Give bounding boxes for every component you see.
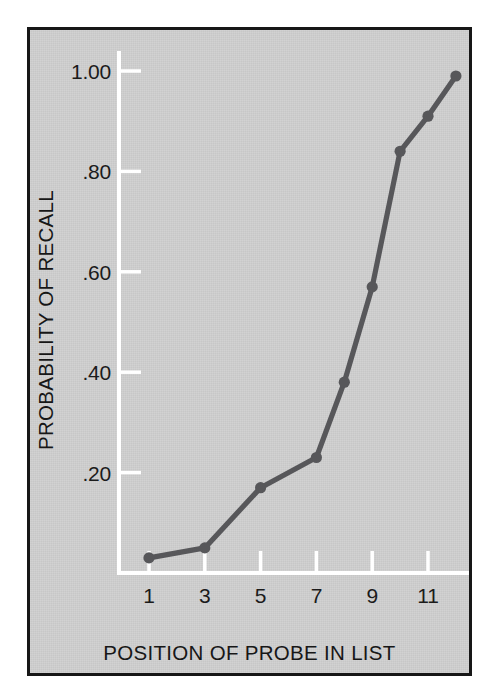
y-tick-label: 1.00 (30, 61, 111, 82)
x-tick-label: 3 (199, 585, 210, 606)
line-chart-plot (30, 30, 469, 673)
data-series-group (143, 70, 461, 563)
data-point (395, 146, 406, 157)
y-axis-title: PROBABILITY OF RECALL (34, 190, 58, 450)
recall-curve (149, 76, 456, 558)
y-tick-label: .20 (30, 462, 111, 483)
data-point (367, 281, 378, 292)
data-point (339, 377, 350, 388)
y-tick-label: .80 (30, 161, 111, 182)
figure-plate: .20.40.60.801.00 1357911 PROBABILITY OF … (27, 27, 472, 676)
x-tick-label: 7 (311, 585, 322, 606)
x-tick-marks (149, 551, 428, 573)
data-point (311, 452, 322, 463)
x-tick-label: 5 (255, 585, 266, 606)
y-tick-marks (119, 71, 141, 473)
x-axis-title: POSITION OF PROBE IN LIST (30, 641, 469, 665)
data-point (422, 111, 433, 122)
data-point (255, 482, 266, 493)
x-tick-label: 11 (417, 585, 438, 606)
data-point (143, 552, 154, 563)
data-point (450, 70, 461, 81)
recall-data-points (143, 70, 461, 563)
x-tick-label: 1 (143, 585, 154, 606)
figure-root: .20.40.60.801.00 1357911 PROBABILITY OF … (0, 0, 495, 691)
data-point (199, 542, 210, 553)
x-tick-label: 9 (366, 585, 377, 606)
